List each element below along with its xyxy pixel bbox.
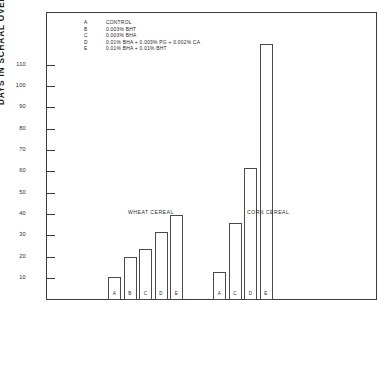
bar-wheat-e xyxy=(170,215,183,300)
legend-row-c: C0.003% BHA xyxy=(84,33,200,40)
y-tick-label: 50 xyxy=(19,189,26,195)
y-tick-label: 90 xyxy=(19,103,26,109)
bar-label: C xyxy=(229,291,242,296)
y-tick-label: 100 xyxy=(16,82,26,88)
legend-row-a: ACONTROL xyxy=(84,20,200,27)
y-axis-title: DAYS IN SCHAAL OVEN AT 145°F. xyxy=(0,0,6,105)
y-tick-label: 60 xyxy=(19,167,26,173)
legend-label: 0.01% BHA + 0.003% PG + 0.002% CA xyxy=(106,40,200,45)
y-tick-mark xyxy=(46,214,55,215)
legend-key: D xyxy=(84,40,106,47)
legend-row-e: E0.01% BHA + 0.01% BHT xyxy=(84,46,200,53)
bar-label: A xyxy=(108,291,121,296)
y-tick-label: 20 xyxy=(19,253,26,259)
bar-wheat-d xyxy=(155,232,168,300)
y-tick-label: 30 xyxy=(19,231,26,237)
legend-key: B xyxy=(84,27,106,34)
y-tick-mark xyxy=(46,107,55,108)
legend-row-d: D0.01% BHA + 0.003% PG + 0.002% CA xyxy=(84,40,200,47)
y-tick-mark xyxy=(46,150,55,151)
y-tick-mark xyxy=(46,257,55,258)
y-tick-label: 10 xyxy=(19,274,26,280)
bar-corn-c xyxy=(229,223,242,300)
bar-wheat-a xyxy=(108,277,121,301)
y-tick-mark xyxy=(46,193,55,194)
y-tick-mark xyxy=(46,65,55,66)
bar-corn-e xyxy=(260,44,273,300)
y-tick-label: 80 xyxy=(19,125,26,131)
legend-label: CONTROL xyxy=(106,20,132,25)
y-tick-label: 110 xyxy=(16,61,26,67)
y-tick-mark xyxy=(46,129,55,130)
legend-key: C xyxy=(84,33,106,40)
legend-key: A xyxy=(84,20,106,27)
legend-row-b: B0.003% BHT xyxy=(84,27,200,34)
bar-chart: DAYS IN SCHAAL OVEN AT 145°F. 1020304050… xyxy=(0,0,391,369)
bar-label: D xyxy=(244,291,257,296)
bar-corn-d xyxy=(244,168,257,300)
bar-label: A xyxy=(213,291,226,296)
bar-label: E xyxy=(260,291,273,296)
y-tick-mark xyxy=(46,171,55,172)
y-tick-mark xyxy=(46,235,55,236)
chart-legend: ACONTROLB0.003% BHTC0.003% BHAD0.01% BHA… xyxy=(84,20,200,53)
legend-label: 0.003% BHA xyxy=(106,33,137,38)
legend-label: 0.01% BHA + 0.01% BHT xyxy=(106,46,167,51)
plot-frame xyxy=(46,12,377,300)
legend-label: 0.003% BHT xyxy=(106,27,136,32)
bar-label: D xyxy=(155,291,168,296)
bar-label: B xyxy=(124,291,137,296)
y-tick-label: 70 xyxy=(19,146,26,152)
legend-key: E xyxy=(84,46,106,53)
y-tick-mark xyxy=(46,86,55,87)
group-label-wheat: WHEAT CEREAL xyxy=(128,209,174,215)
bar-label: E xyxy=(170,291,183,296)
y-tick-label: 40 xyxy=(19,210,26,216)
y-tick-mark xyxy=(46,278,55,279)
bar-label: C xyxy=(139,291,152,296)
group-label-corn: CORN CEREAL xyxy=(247,209,289,215)
